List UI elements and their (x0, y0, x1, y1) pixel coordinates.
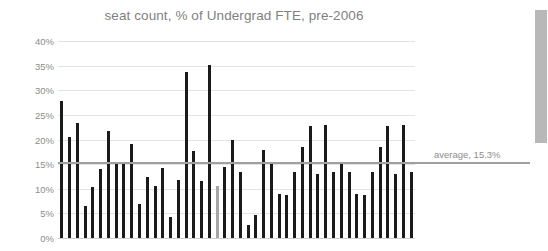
gridline (58, 213, 415, 214)
bar[interactable] (200, 181, 203, 238)
bar[interactable] (379, 147, 382, 238)
bar[interactable] (68, 137, 71, 238)
bar[interactable] (130, 144, 133, 238)
bar[interactable] (386, 126, 389, 238)
y-axis-tick-label: 0% (6, 233, 54, 244)
average-line-label: average, 15.3% (434, 149, 501, 160)
chart-title: seat count, % of Undergrad FTE, pre-2006 (0, 8, 468, 23)
scrollbar-thumb[interactable] (535, 10, 547, 143)
bar[interactable] (107, 131, 110, 238)
bar[interactable] (169, 217, 172, 238)
bar[interactable] (293, 172, 296, 238)
bar[interactable] (177, 180, 180, 238)
bar-chart: seat count, % of Undergrad FTE, pre-2006… (0, 0, 530, 251)
gridline (58, 238, 415, 239)
bar[interactable] (340, 164, 343, 238)
bar[interactable] (60, 101, 63, 238)
bar[interactable] (138, 204, 141, 238)
gridline (58, 189, 415, 190)
bar[interactable] (270, 164, 273, 238)
bar[interactable] (332, 172, 335, 238)
bar[interactable] (410, 172, 413, 238)
gridline (58, 140, 415, 141)
bar[interactable] (254, 215, 257, 238)
gridline (58, 115, 415, 116)
bar[interactable] (115, 163, 118, 238)
bar[interactable] (216, 186, 219, 238)
y-axis-tick-label: 40% (6, 36, 54, 47)
bar[interactable] (76, 123, 79, 238)
bar[interactable] (146, 177, 149, 238)
bar[interactable] (309, 126, 312, 238)
bar[interactable] (363, 195, 366, 238)
gridline (58, 41, 415, 42)
gridline (58, 90, 415, 91)
bar[interactable] (285, 195, 288, 238)
y-axis-tick-label: 5% (6, 208, 54, 219)
bar[interactable] (223, 167, 226, 238)
bar[interactable] (154, 186, 157, 238)
gridline (58, 164, 415, 165)
bar[interactable] (231, 140, 234, 239)
gridline (58, 66, 415, 67)
y-axis-tick-label: 15% (6, 159, 54, 170)
y-axis-tick-label: 20% (6, 134, 54, 145)
bar[interactable] (239, 172, 242, 238)
bar[interactable] (122, 164, 125, 238)
bar[interactable] (316, 174, 319, 238)
bar[interactable] (247, 225, 250, 238)
bar[interactable] (84, 206, 87, 238)
bar[interactable] (355, 194, 358, 238)
y-axis-tick-label: 30% (6, 85, 54, 96)
bar[interactable] (371, 172, 374, 238)
plot-area (58, 41, 415, 238)
bar[interactable] (348, 172, 351, 238)
vertical-scrollbar[interactable] (535, 0, 548, 251)
bar[interactable] (324, 125, 327, 238)
bar[interactable] (278, 194, 281, 238)
y-axis-tick-label: 35% (6, 60, 54, 71)
bar[interactable] (192, 151, 195, 238)
bar[interactable] (161, 168, 164, 238)
y-axis: 40%35%30%25%20%15%10%5%0% (0, 41, 54, 238)
bar[interactable] (208, 65, 211, 238)
bar[interactable] (91, 187, 94, 238)
y-axis-tick-label: 10% (6, 183, 54, 194)
bar[interactable] (185, 72, 188, 238)
bar[interactable] (301, 147, 304, 238)
bar[interactable] (99, 169, 102, 238)
bar[interactable] (394, 174, 397, 238)
y-axis-tick-label: 25% (6, 109, 54, 120)
average-reference-line (58, 162, 530, 164)
bar[interactable] (402, 125, 405, 238)
